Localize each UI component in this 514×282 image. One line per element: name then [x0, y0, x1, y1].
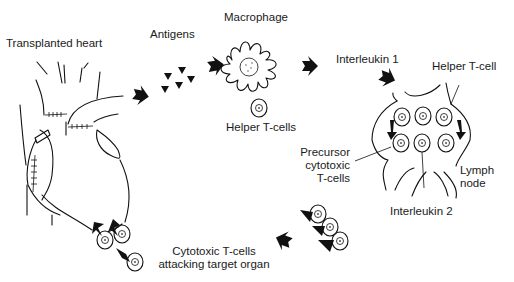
- label-cytotoxic-attacking: Cytotoxic T-cells attacking target organ: [150, 245, 278, 271]
- label-precursor-cytotoxic: Precursor cytotoxic T-cells: [290, 146, 350, 185]
- label-macrophage: Macrophage: [224, 11, 288, 24]
- flow-arrow-icon: [302, 56, 318, 76]
- label-cytotoxic-line2: attacking target organ: [150, 258, 278, 271]
- lymph-node-icon: [355, 83, 470, 198]
- label-cytotoxic-line1: Cytotoxic T-cells: [150, 245, 278, 258]
- flow-arrow-icon: [377, 66, 399, 90]
- diagram-canvas: Transplanted heart Antigens Macrophage H…: [0, 0, 514, 282]
- label-helper-t-cells: Helper T-cells: [226, 121, 296, 134]
- label-antigens: Antigens: [150, 28, 195, 41]
- macrophage-icon: [221, 42, 276, 91]
- label-interleukin-2: Interleukin 2: [390, 205, 453, 218]
- helper-t-cell-icon: [251, 99, 267, 117]
- label-helper-t-cell: Helper T-cell: [432, 60, 496, 73]
- flow-arrow-icon: [131, 84, 150, 106]
- label-precursor-line1: Precursor: [290, 146, 350, 159]
- heart-illustration: [20, 62, 129, 232]
- label-precursor-line2: cytotoxic: [290, 159, 350, 172]
- label-transplanted-heart: Transplanted heart: [6, 37, 102, 50]
- cytotoxic-cells-leaving-heart: [92, 219, 143, 271]
- label-lymph-node: Lymph node: [460, 164, 494, 190]
- label-interleukin-1: Interleukin 1: [336, 53, 399, 66]
- label-lymph-line2: node: [460, 177, 494, 190]
- label-lymph-line1: Lymph: [460, 164, 494, 177]
- antigen-icon: [161, 67, 195, 93]
- cytotoxic-t-cells-cluster: [300, 205, 348, 252]
- label-precursor-line3: T-cells: [290, 172, 350, 185]
